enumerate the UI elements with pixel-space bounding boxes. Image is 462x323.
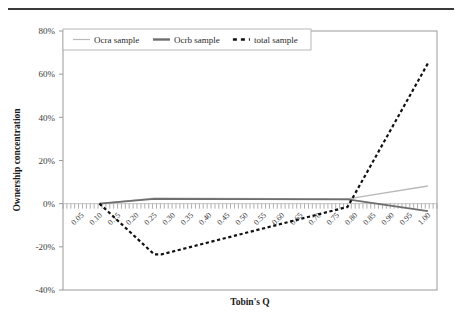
chart-legend: Ocra sampleOcrb sampletotal sample <box>63 29 311 50</box>
legend-label: total sample <box>254 35 298 45</box>
x-tick-label: 0.20 <box>124 211 140 227</box>
x-axis-ticks: 0.050.100.150.200.250.300.350.400.450.50… <box>63 204 437 227</box>
y-axis-ticks: -40%-20%0%20%40%60%80% <box>36 26 64 295</box>
x-tick-label: 0.60 <box>270 211 286 227</box>
x-tick-label: 1.00 <box>416 211 432 227</box>
x-tick-label: 0.40 <box>197 211 213 227</box>
x-tick-label: 0.10 <box>88 211 104 227</box>
series-line <box>99 186 427 204</box>
x-tick-label: 0.05 <box>69 211 85 227</box>
legend-label: Ocra sample <box>94 35 139 45</box>
x-tick-label: 0.75 <box>325 211 341 227</box>
x-tick-label: 0.80 <box>343 211 359 227</box>
x-tick-label: 0.95 <box>398 211 414 227</box>
x-tick-label: 0.85 <box>361 211 377 227</box>
x-tick-label: 0.90 <box>380 211 396 227</box>
x-axis-title: Tobin's Q <box>230 297 270 307</box>
y-tick-label: 0% <box>43 199 56 209</box>
x-tick-label: 0.45 <box>215 211 231 227</box>
y-tick-label: -20% <box>36 242 56 252</box>
chart-svg: -40%-20%0%20%40%60%80% 0.050.100.150.200… <box>0 0 462 323</box>
y-tick-label: -40% <box>36 285 56 295</box>
legend-label: Ocrb sample <box>174 35 220 45</box>
y-tick-label: 40% <box>39 113 56 123</box>
y-tick-label: 80% <box>39 26 56 36</box>
y-axis-title: Ownership concentration <box>12 108 22 212</box>
x-tick-label: 0.35 <box>179 211 195 227</box>
x-tick-label: 0.30 <box>161 211 177 227</box>
x-tick-label: 0.55 <box>252 211 268 227</box>
y-tick-label: 60% <box>39 69 56 79</box>
figure-container: -40%-20%0%20%40%60%80% 0.050.100.150.200… <box>0 0 462 323</box>
x-tick-label: 0.50 <box>234 211 250 227</box>
x-tick-label: 0.25 <box>142 211 158 227</box>
y-tick-label: 20% <box>39 156 56 166</box>
plot-frame <box>63 31 437 290</box>
